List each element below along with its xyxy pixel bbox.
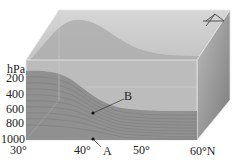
x-tick-60n: 60°N [190,144,216,158]
y-tick-800: 800 [6,116,24,130]
point-a-label: A [103,144,112,158]
atmosphere-block-diagram: B A hPa 200 400 600 800 1000 30° 40° 50°… [0,0,242,162]
y-tick-600: 600 [6,102,24,116]
x-tick-50: 50° [133,143,150,157]
y-tick-400: 400 [6,87,24,101]
point-b-label: B [124,89,132,103]
x-tick-40: 40° [74,143,91,157]
x-tick-30: 30° [10,143,27,157]
y-tick-200: 200 [6,71,24,85]
